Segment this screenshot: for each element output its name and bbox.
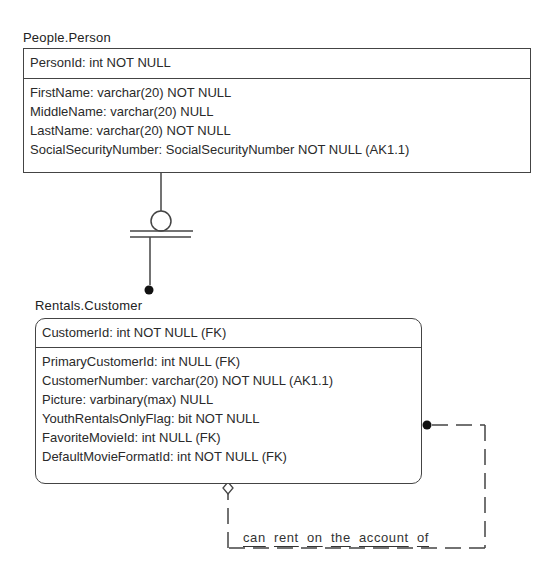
primary-key-section: PersonId: int NOT NULL [24,49,530,79]
attribute: SocialSecurityNumber: SocialSecurityNumb… [30,140,524,159]
label-word: rent [274,530,299,545]
label-word: the [331,530,351,545]
person-customer-relationship[interactable] [130,172,193,295]
label-word: of [417,530,429,545]
filled-dot-icon [145,286,154,295]
optional-circle-icon [151,211,171,231]
attribute: MiddleName: varchar(20) NULL [30,102,524,121]
entity-customer[interactable]: CustomerId: int NOT NULL (FK) PrimaryCus… [35,318,422,484]
pk-attribute: PersonId: int NOT NULL [30,53,524,72]
attribute: DefaultMovieFormatId: int NOT NULL (FK) [42,447,415,466]
attribute: FavoriteMovieId: int NULL (FK) [42,428,415,447]
attribute: CustomerNumber: varchar(20) NOT NULL (AK… [42,371,415,390]
relationship-label: can rent on the account of [243,530,429,545]
label-word: account [359,530,409,545]
attribute: LastName: varchar(20) NOT NULL [30,121,524,140]
label-word: can [243,530,266,545]
entity-title-customer: Rentals.Customer [35,298,142,313]
pk-attribute: CustomerId: int NOT NULL (FK) [42,323,415,342]
attribute-section: PrimaryCustomerId: int NULL (FK) Custome… [36,348,421,466]
attribute: PrimaryCustomerId: int NULL (FK) [42,352,415,371]
entity-person[interactable]: PersonId: int NOT NULL FirstName: varcha… [23,48,531,173]
attribute: FirstName: varchar(20) NOT NULL [30,83,524,102]
attribute-section: FirstName: varchar(20) NOT NULL MiddleNa… [24,79,530,159]
attribute: YouthRentalsOnlyFlag: bit NOT NULL [42,409,415,428]
attribute: Picture: varbinary(max) NULL [42,390,415,409]
primary-key-section: CustomerId: int NOT NULL (FK) [36,319,421,348]
entity-title-person: People.Person [23,30,111,45]
filled-dot-icon [423,421,432,430]
label-word: on [307,530,323,545]
